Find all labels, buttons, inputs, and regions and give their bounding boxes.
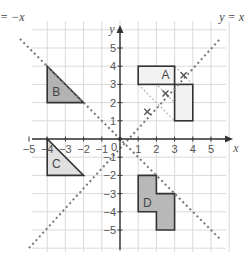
origin-point — [118, 137, 122, 141]
x-tick-label: 3 — [172, 143, 178, 155]
label-y-equals-neg-x: = −x — [0, 10, 25, 24]
x-tick-label: −4 — [41, 143, 54, 155]
labels: −5−4−3−2−11234554321−1−2−3−4−50xyy = x= … — [0, 10, 245, 236]
cross-marker — [163, 91, 169, 97]
y-tick-label: 4 — [110, 60, 116, 72]
label-y-equals-x: y = x — [218, 10, 244, 24]
shape-label-c: C — [52, 157, 61, 171]
x-tick-label: 5 — [208, 143, 214, 155]
x-tick-label: −2 — [77, 143, 90, 155]
origin-label: 0 — [111, 141, 117, 153]
x-tick-label: 2 — [153, 143, 159, 155]
shape-a-side-part — [175, 84, 193, 120]
coordinate-grid: ABCD −5−4−3−2−11234554321−1−2−3−4−50xyy … — [0, 0, 246, 259]
x-tick-label: 1 — [135, 143, 141, 155]
y-tick-label: 5 — [110, 42, 116, 54]
y-axis-label: y — [108, 22, 115, 36]
shape-label-d: D — [143, 196, 152, 210]
x-tick-label: −5 — [23, 143, 36, 155]
y-tick-label: 1 — [110, 115, 116, 127]
y-tick-label: −1 — [103, 151, 116, 163]
y-tick-label: −4 — [103, 206, 116, 218]
y-tick-label: 2 — [110, 97, 116, 109]
shape-label-b: B — [52, 85, 60, 99]
shape-label-a: A — [161, 68, 169, 82]
y-tick-label: −5 — [103, 224, 116, 236]
y-tick-label: 3 — [110, 78, 116, 90]
x-tick-label: 4 — [190, 143, 196, 155]
y-tick-label: −2 — [103, 169, 116, 181]
x-tick-label: −3 — [59, 143, 72, 155]
x-axis-label: x — [232, 141, 239, 155]
y-tick-label: −3 — [103, 188, 116, 200]
cross-marker — [144, 109, 150, 115]
y-axis-arrow-icon — [117, 25, 124, 33]
